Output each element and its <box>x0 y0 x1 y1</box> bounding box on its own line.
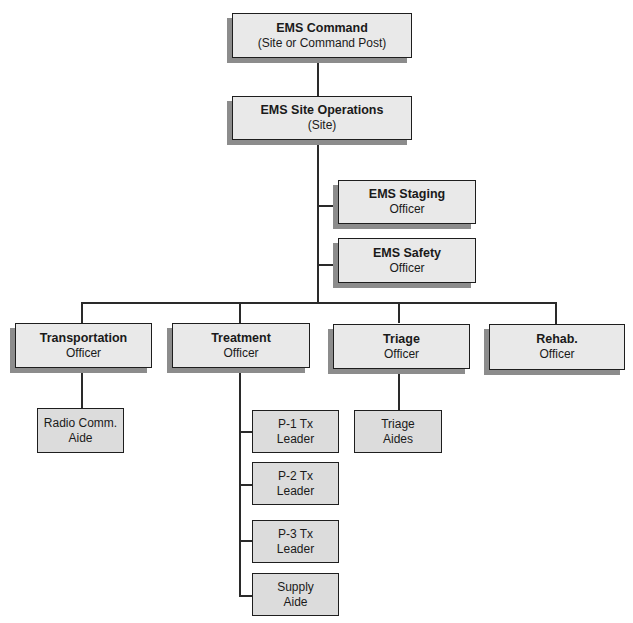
connector-treatment-trunk <box>239 368 241 596</box>
connector-to-supply <box>239 595 252 597</box>
radio-comm-aide-box: Radio Comm. Aide <box>37 408 124 453</box>
triage-aides-line1: Triage <box>381 417 415 432</box>
connector-command-to-operations <box>317 58 319 96</box>
connector-operations-trunk <box>317 140 319 304</box>
p3-line1: P-3 Tx <box>278 527 313 542</box>
p1-line2: Leader <box>277 432 314 447</box>
connector-to-transportation <box>81 302 83 323</box>
radio-comm-line1: Radio Comm. <box>44 416 117 431</box>
safety-subtitle: Officer <box>389 261 424 276</box>
transportation-subtitle: Officer <box>66 346 101 361</box>
connector-to-rehab <box>555 302 557 324</box>
supply-aide-box: Supply Aide <box>252 573 339 616</box>
staging-title: EMS Staging <box>369 187 445 202</box>
rehab-officer-box: Rehab. Officer <box>489 324 625 370</box>
p1-line1: P-1 Tx <box>278 417 313 432</box>
rehab-title: Rehab. <box>536 332 578 347</box>
connector-transportation-to-radio <box>81 368 83 408</box>
ems-safety-box: EMS Safety Officer <box>338 238 476 283</box>
p1-tx-leader-box: P-1 Tx Leader <box>252 410 339 453</box>
treatment-title: Treatment <box>211 331 271 346</box>
radio-comm-line2: Aide <box>68 431 92 446</box>
triage-officer-box: Triage Officer <box>333 324 470 369</box>
triage-aides-line2: Aides <box>383 432 413 447</box>
connector-to-p2 <box>239 484 252 486</box>
p2-line2: Leader <box>277 484 314 499</box>
ems-command-title: EMS Command <box>276 21 368 36</box>
connector-to-triage <box>398 302 400 323</box>
connector-triage-to-aides <box>398 369 400 410</box>
treatment-subtitle: Officer <box>223 346 258 361</box>
transportation-officer-box: Transportation Officer <box>15 323 152 368</box>
site-operations-subtitle: (Site) <box>308 118 337 133</box>
p3-tx-leader-box: P-3 Tx Leader <box>252 520 339 563</box>
connector-to-p3 <box>239 540 252 542</box>
safety-title: EMS Safety <box>373 246 441 261</box>
staging-subtitle: Officer <box>389 202 424 217</box>
supply-line2: Aide <box>283 595 307 610</box>
connector-to-p1 <box>239 431 252 433</box>
connector-to-treatment <box>239 302 241 323</box>
site-operations-title: EMS Site Operations <box>261 103 384 118</box>
ems-site-operations-box: EMS Site Operations (Site) <box>232 96 412 140</box>
triage-subtitle: Officer <box>384 347 419 362</box>
ems-command-subtitle: (Site or Command Post) <box>258 36 387 51</box>
treatment-officer-box: Treatment Officer <box>172 323 310 368</box>
triage-title: Triage <box>383 332 420 347</box>
ems-command-box: EMS Command (Site or Command Post) <box>232 13 412 58</box>
p2-line1: P-2 Tx <box>278 469 313 484</box>
connector-to-staging <box>317 205 338 207</box>
rehab-subtitle: Officer <box>539 347 574 362</box>
transportation-title: Transportation <box>40 331 128 346</box>
ems-staging-box: EMS Staging Officer <box>338 180 476 224</box>
triage-aides-box: Triage Aides <box>354 410 442 453</box>
p3-line2: Leader <box>277 542 314 557</box>
p2-tx-leader-box: P-2 Tx Leader <box>252 462 339 505</box>
connector-officer-bar <box>81 302 556 304</box>
connector-to-safety <box>317 264 338 266</box>
supply-line1: Supply <box>277 580 314 595</box>
